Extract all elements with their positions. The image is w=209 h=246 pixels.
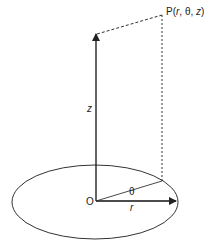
projection-dashed-top	[97, 15, 162, 34]
angle-label: θ	[129, 187, 135, 197]
cylindrical-coordinates-diagram	[0, 0, 209, 246]
origin-label: O	[86, 197, 94, 207]
point-label: P(r, θ, z)	[166, 7, 204, 17]
radius-label: r	[130, 203, 133, 213]
z-axis-label: z	[87, 104, 92, 114]
base-ellipse	[12, 165, 178, 239]
